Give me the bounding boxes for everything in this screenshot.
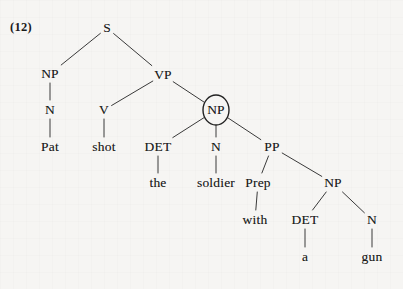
tree-node-vp: VP bbox=[154, 67, 172, 83]
tree-edge-vp-to-np-object bbox=[173, 82, 205, 103]
tree-node-gun: gun bbox=[362, 249, 383, 265]
tree-edge-np-object-to-det-1 bbox=[173, 118, 204, 138]
tree-node-n-subj: N bbox=[45, 102, 55, 118]
syntax-tree-diagram: (12) SNPVPNVNPPatshotDETNPPthesoldierPre… bbox=[0, 0, 403, 289]
tree-edge-np-pp-to-n-gun bbox=[342, 192, 364, 213]
tree-node-n-obj: N bbox=[211, 139, 221, 155]
tree-node-v: V bbox=[99, 102, 109, 118]
tree-node-prep: Prep bbox=[245, 175, 271, 191]
tree-node-shot: shot bbox=[92, 139, 115, 155]
tree-node-soldier: soldier bbox=[197, 175, 235, 191]
tree-node-np-subj: NP bbox=[41, 66, 59, 82]
tree-node-the: the bbox=[149, 175, 166, 191]
tree-node-with: with bbox=[243, 212, 268, 228]
tree-node-det-1: DET bbox=[145, 139, 172, 155]
tree-edge-vp-to-v bbox=[112, 81, 153, 105]
tree-node-n-gun: N bbox=[367, 212, 377, 228]
tree-edge-np-object-to-pp bbox=[228, 118, 261, 140]
tree-node-np-pp: NP bbox=[324, 175, 342, 191]
tree-edge-pp-to-np-pp bbox=[282, 153, 322, 176]
tree-node-s: S bbox=[103, 20, 111, 36]
tree-node-np-object: NP bbox=[207, 102, 225, 118]
tree-node-pp: PP bbox=[264, 139, 279, 155]
tree-edges bbox=[0, 0, 403, 289]
tree-edge-np-pp-to-det-2 bbox=[313, 192, 327, 210]
tree-edge-pp-to-prep bbox=[262, 156, 269, 173]
tree-edge-prep-to-with bbox=[256, 192, 257, 210]
tree-node-det-2: DET bbox=[292, 212, 319, 228]
tree-node-a: a bbox=[302, 249, 308, 265]
example-number: (12) bbox=[10, 20, 32, 35]
circled-constituent-highlight bbox=[0, 0, 403, 289]
tree-edge-s-to-np-subj bbox=[61, 33, 100, 65]
tree-edge-s-to-vp bbox=[114, 34, 152, 66]
tree-node-pat: Pat bbox=[41, 139, 59, 155]
